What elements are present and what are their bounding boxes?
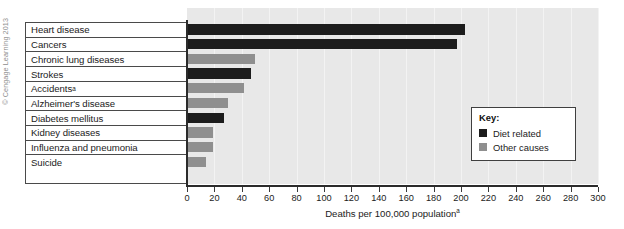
x-axis-tick-label: 140 xyxy=(364,193,394,203)
x-axis-title: Deaths per 100,000 populationa xyxy=(187,208,598,219)
x-axis-tick-label: 200 xyxy=(446,193,476,203)
category-label-row: Accidentsa xyxy=(26,82,187,97)
bar xyxy=(188,54,255,64)
category-label-row: Cancers xyxy=(26,38,187,53)
bar xyxy=(188,142,213,152)
legend-item: Diet related xyxy=(479,126,575,140)
bar xyxy=(188,39,457,49)
category-label-text: Strokes xyxy=(31,69,63,80)
category-label-row: Suicide xyxy=(26,155,187,170)
category-label-row: Alzheimer's disease xyxy=(26,97,187,112)
gridline xyxy=(598,8,599,184)
x-axis-tick-label: 60 xyxy=(254,193,284,203)
x-axis-tick xyxy=(516,187,517,192)
x-axis-tick-label: 100 xyxy=(309,193,339,203)
legend-item-label: Other causes xyxy=(493,142,549,153)
legend-swatch-other xyxy=(479,143,487,151)
category-label-text: Suicide xyxy=(31,157,62,168)
category-label-row: Influenza and pneumonia xyxy=(26,141,187,156)
legend-item-label: Diet related xyxy=(493,128,541,139)
category-label-text: Chronic lung diseases xyxy=(31,54,124,65)
bar xyxy=(188,68,251,78)
x-axis-tick xyxy=(434,187,435,192)
x-axis-tick xyxy=(214,187,215,192)
category-label-row: Diabetes mellitus xyxy=(26,111,187,126)
x-axis-tick xyxy=(571,187,572,192)
x-axis-tick-label: 40 xyxy=(227,193,257,203)
x-axis-tick-label: 280 xyxy=(556,193,586,203)
x-axis-tick-label: 0 xyxy=(172,193,202,203)
x-axis-tick xyxy=(297,187,298,192)
category-label-row: Heart disease xyxy=(26,23,187,38)
bar xyxy=(188,24,465,34)
category-label-table: Heart diseaseCancersChronic lung disease… xyxy=(25,22,187,184)
legend-item: Other causes xyxy=(479,140,575,154)
bar xyxy=(188,127,213,137)
x-axis-tick-label: 80 xyxy=(282,193,312,203)
category-label-text: Heart disease xyxy=(31,24,90,35)
x-axis-tick xyxy=(488,187,489,192)
x-axis-tick-label: 240 xyxy=(501,193,531,203)
x-axis-tick-label: 300 xyxy=(583,193,613,203)
category-label-row: Strokes xyxy=(26,67,187,82)
category-label-row: Kidney diseases xyxy=(26,126,187,141)
x-axis-tick xyxy=(598,187,599,192)
category-label-text: Accidents xyxy=(31,83,72,94)
legend-swatch-diet xyxy=(479,129,487,137)
x-axis-tick-label: 120 xyxy=(336,193,366,203)
category-label-text: Cancers xyxy=(31,39,66,50)
bar-chart-figure: © Cengage Learning 2013 Heart diseaseCan… xyxy=(0,0,624,229)
x-axis-tick xyxy=(543,187,544,192)
bar-row xyxy=(188,81,598,96)
x-axis-tick-label: 180 xyxy=(419,193,449,203)
x-axis-tick-label: 260 xyxy=(528,193,558,203)
x-axis-tick xyxy=(379,187,380,192)
x-axis-tick xyxy=(406,187,407,192)
bar-row xyxy=(188,22,598,37)
x-axis-tick xyxy=(324,187,325,192)
bar xyxy=(188,98,228,108)
bar xyxy=(188,83,244,93)
copyright-credit: © Cengage Learning 2013 xyxy=(0,18,12,108)
bar-row xyxy=(188,66,598,81)
category-label-row: Chronic lung diseases xyxy=(26,52,187,67)
bar-row xyxy=(188,37,598,52)
x-axis-tick xyxy=(269,187,270,192)
x-axis-tick-label: 220 xyxy=(473,193,503,203)
legend-box: Key: Diet relatedOther causes xyxy=(471,107,576,161)
legend-title: Key: xyxy=(479,112,575,123)
bar-row xyxy=(188,51,598,66)
x-axis-tick-label: 160 xyxy=(391,193,421,203)
x-axis-line xyxy=(186,185,598,187)
x-axis-tick xyxy=(242,187,243,192)
bar xyxy=(188,157,206,167)
x-axis-tick xyxy=(461,187,462,192)
x-axis-tick-label: 20 xyxy=(199,193,229,203)
bar xyxy=(188,113,224,123)
x-axis-tick xyxy=(351,187,352,192)
category-label-text: Kidney diseases xyxy=(31,127,100,138)
x-axis-title-superscript: a xyxy=(456,207,460,214)
category-label-text: Alzheimer's disease xyxy=(31,98,115,109)
legend-items: Diet relatedOther causes xyxy=(479,126,575,154)
x-axis-tick xyxy=(187,187,188,192)
category-label-text: Influenza and pneumonia xyxy=(31,142,138,153)
category-label-text: Diabetes mellitus xyxy=(31,113,103,124)
x-axis-title-text: Deaths per 100,000 population xyxy=(325,208,456,219)
